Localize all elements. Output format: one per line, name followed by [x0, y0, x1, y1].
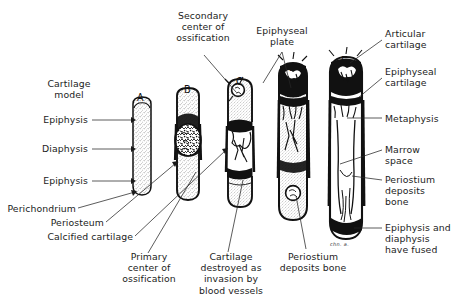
- label-marrow-space: Marrow space: [385, 144, 459, 166]
- leader-secondary-center: [204, 55, 236, 92]
- label-cartilage-destroyed-as-invasion-by-blood-vessels: Cartilage destroyed as invasion by blood…: [186, 251, 276, 296]
- figure-d-epiphyseal-plate: [278, 52, 309, 220]
- label-epiphysis-bottom: Epiphysis: [8, 175, 88, 186]
- label-cartilage-model: Cartilage model: [33, 78, 105, 100]
- label-epiphyseal-plate: Epiphyseal plate: [240, 25, 324, 47]
- stage-letter-c: C: [236, 76, 243, 87]
- leader-articular-cartilage: [350, 40, 382, 63]
- label-metaphysis: Metaphysis: [385, 113, 459, 124]
- stage-letter-b: B: [184, 84, 191, 95]
- figure-a-cartilage-model: [133, 97, 151, 195]
- stage-letter-a: A: [137, 92, 144, 103]
- artist-signature: chn. a.: [330, 241, 349, 247]
- label-diaphysis: Diaphysis: [8, 143, 88, 154]
- label-epiphysis-top: Epiphysis: [8, 114, 88, 125]
- label-epiphysis-and-diaphysis-have-fused: Epiphysis and diaphysis have fused: [385, 222, 459, 256]
- figure-b-primary-ossification: [175, 88, 201, 200]
- stage-letter-e: E: [341, 55, 347, 66]
- leader-primary-center: [148, 172, 196, 253]
- label-articular-cartilage: Articular cartilage: [385, 28, 459, 50]
- label-periostium-deposits-bone-bottom: Periostium deposits bone: [268, 251, 358, 273]
- figure-c-secondary-center-appears: [225, 77, 254, 207]
- label-primary-center-of-ossification: Primary center of ossification: [104, 251, 194, 285]
- figure-e-fused-mature-bone: [329, 47, 364, 239]
- leader-perichondrium: [78, 192, 135, 208]
- label-secondary-center-of-ossification: Secondary center of ossification: [155, 10, 251, 44]
- label-calcified-cartilage: Calcified cartilage: [16, 231, 133, 242]
- stage-letter-d: D: [289, 62, 296, 73]
- diagram-canvas: Cartilage model Epiphysis Diaphysis Epip…: [0, 0, 459, 303]
- label-periostium-deposits-bone-right: Periostium deposits bone: [385, 174, 459, 208]
- label-periosteum: Periosteum: [20, 217, 104, 228]
- label-epiphyseal-cartilage: Epiphyseal cartilage: [385, 66, 459, 88]
- label-perichondrium: Perichondrium: [2, 203, 76, 214]
